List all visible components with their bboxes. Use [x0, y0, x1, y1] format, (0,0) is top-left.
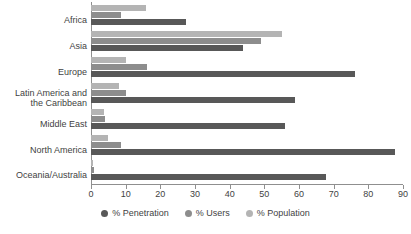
bar — [91, 174, 326, 180]
bar — [91, 31, 282, 37]
bar-group — [91, 31, 403, 51]
x-axis-tick-label: 0 — [88, 189, 93, 199]
legend-swatch-icon — [185, 210, 192, 217]
legend-label: % Population — [257, 208, 310, 218]
bar — [91, 71, 355, 77]
x-axis-tick-label: 30 — [190, 189, 200, 199]
category-label: Africa — [0, 15, 87, 26]
x-axis-line — [91, 184, 403, 185]
bar — [91, 160, 93, 166]
x-axis-tick-label: 40 — [225, 189, 235, 199]
legend-swatch-icon — [246, 210, 253, 217]
bar-group — [91, 57, 403, 77]
category-label: North America — [0, 145, 87, 156]
bar — [91, 142, 121, 148]
category-label: Latin America and the Caribbean — [0, 88, 87, 109]
bar — [91, 45, 243, 51]
category-axis-labels: AfricaAsiaEuropeLatin America and the Ca… — [0, 2, 87, 184]
category-label: Oceania/Australia — [0, 170, 87, 181]
bar — [91, 12, 121, 18]
x-axis-tick-label: 80 — [363, 189, 373, 199]
bar — [91, 90, 126, 96]
bar-group — [91, 135, 403, 155]
bar — [91, 97, 295, 103]
bar-group — [91, 5, 403, 25]
bar — [91, 38, 261, 44]
category-label: Asia — [0, 41, 87, 52]
bar — [91, 5, 146, 11]
x-axis-tick-label: 60 — [294, 189, 304, 199]
legend-label: % Penetration — [112, 208, 169, 218]
bar — [91, 19, 186, 25]
legend-item[interactable]: % Penetration — [101, 208, 169, 218]
legend-item[interactable]: % Population — [246, 208, 310, 218]
bar — [91, 109, 104, 115]
x-axis-tick-label: 50 — [259, 189, 269, 199]
bar — [91, 135, 108, 141]
x-axis-tick-label: 70 — [329, 189, 339, 199]
bar — [91, 116, 105, 122]
bar — [91, 83, 119, 89]
bar — [91, 123, 285, 129]
bar — [91, 64, 147, 70]
x-axis-tick-label: 20 — [155, 189, 165, 199]
legend-item[interactable]: % Users — [185, 208, 230, 218]
category-label: Middle East — [0, 119, 87, 130]
bar — [91, 167, 94, 173]
category-label: Europe — [0, 67, 87, 78]
chart-legend: % Penetration% Users% Population — [0, 208, 411, 218]
x-axis-tick-label: 10 — [121, 189, 131, 199]
x-axis-tick-label: 90 — [398, 189, 408, 199]
bar-group — [91, 83, 403, 103]
bar-group — [91, 109, 403, 129]
legend-label: % Users — [196, 208, 230, 218]
plot-area — [91, 2, 403, 184]
bar — [91, 57, 126, 63]
bar-chart: AfricaAsiaEuropeLatin America and the Ca… — [0, 0, 411, 234]
bar-group — [91, 160, 403, 180]
bar — [91, 149, 395, 155]
legend-swatch-icon — [101, 210, 108, 217]
